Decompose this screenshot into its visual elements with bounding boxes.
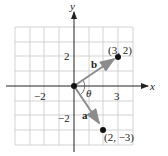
- vector-a-label: a: [82, 109, 88, 121]
- point-b-label: (3, 2): [108, 44, 132, 57]
- vector-b-label: b: [91, 58, 97, 70]
- x-axis-label: x: [149, 80, 155, 92]
- coordinate-plane: y x −2 3 2 −2 b a θ (3, 2) (2, −3): [0, 0, 168, 156]
- y-tick-neg2: −2: [58, 112, 70, 124]
- y-axis-label: y: [69, 0, 75, 12]
- vector-angle-diagram: y x −2 3 2 −2 b a θ (3, 2) (2, −3): [0, 0, 168, 156]
- point-a-label: (2, −3): [104, 131, 134, 144]
- angle-label: θ: [86, 87, 92, 99]
- y-tick-2: 2: [64, 50, 70, 62]
- x-tick-3: 3: [114, 90, 120, 102]
- x-tick-neg2: −2: [34, 90, 46, 102]
- origin-point: [71, 83, 77, 89]
